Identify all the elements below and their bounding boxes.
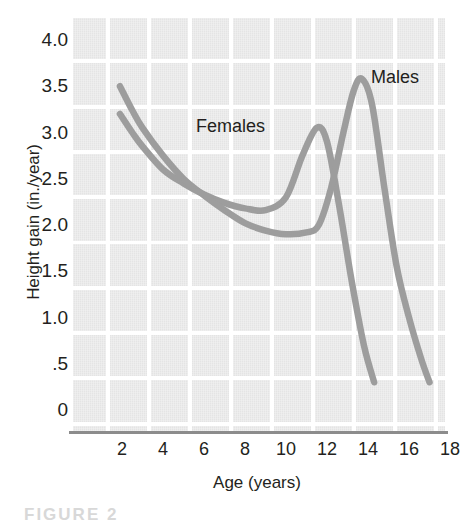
x-tick-label: 4 bbox=[143, 440, 183, 458]
x-tick-label: 8 bbox=[225, 440, 265, 458]
y-tick-label: 0 bbox=[20, 400, 68, 419]
x-tick-label: 16 bbox=[389, 440, 429, 458]
x-tick-label: 2 bbox=[102, 440, 142, 458]
y-tick-label: 1.5 bbox=[20, 261, 68, 280]
y-tick-label: .5 bbox=[20, 354, 68, 373]
series-label-males: Males bbox=[371, 68, 419, 86]
x-tick-label: 10 bbox=[266, 440, 306, 458]
figure-caption: FIGURE 2 bbox=[24, 505, 118, 522]
x-tick-label: 14 bbox=[348, 440, 388, 458]
x-tick-label: 18 bbox=[430, 440, 470, 458]
series-label-females: Females bbox=[196, 117, 265, 135]
x-axis-title: Age (years) bbox=[69, 473, 445, 493]
y-tick-label: 1.0 bbox=[20, 308, 68, 327]
y-tick-label: 3.5 bbox=[20, 76, 68, 95]
y-tick-label: 4.0 bbox=[20, 30, 68, 49]
x-axis-line bbox=[69, 431, 448, 434]
y-tick-label: 2.5 bbox=[20, 169, 68, 188]
y-tick-label: 2.0 bbox=[20, 215, 68, 234]
growth-rate-chart-figure: Height gain (in./year) 0.51.01.52.02.53.… bbox=[0, 0, 474, 522]
x-tick-label: 6 bbox=[184, 440, 224, 458]
x-tick-label: 12 bbox=[307, 440, 347, 458]
y-tick-label: 3.0 bbox=[20, 123, 68, 142]
